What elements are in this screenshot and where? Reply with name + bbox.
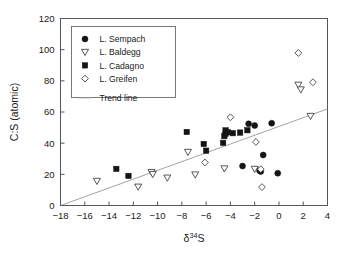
data-point xyxy=(220,140,225,145)
data-point xyxy=(237,130,242,135)
data-point xyxy=(269,120,275,126)
legend-label-l-sempach: L. Sempach xyxy=(100,34,146,44)
data-point xyxy=(135,184,142,190)
data-point xyxy=(164,175,171,181)
x-tick-label: 2 xyxy=(301,210,306,221)
y-tick-label: 100 xyxy=(39,44,55,55)
x-tick-label: −6 xyxy=(201,210,212,221)
data-point xyxy=(149,171,156,177)
y-axis-title: C:S (atomic) xyxy=(8,83,20,141)
scatter-plot: −18−16−14−12−10−8−6−4−202402040608010012… xyxy=(0,0,351,258)
data-point xyxy=(297,87,304,93)
data-point xyxy=(126,173,131,178)
data-point xyxy=(275,170,281,176)
x-tick-label: −2 xyxy=(249,210,260,221)
x-tick-label: −10 xyxy=(150,210,166,221)
x-tick-label: −14 xyxy=(101,210,117,221)
series-l-cadagno xyxy=(114,128,250,179)
legend-marker-l-cadagno xyxy=(82,63,87,68)
y-tick-label: 60 xyxy=(44,106,55,117)
data-point xyxy=(259,184,266,191)
data-point xyxy=(184,129,189,134)
legend-label-l-greifen: L. Greifen xyxy=(100,74,138,84)
data-point xyxy=(192,172,199,178)
data-point xyxy=(202,159,209,166)
legend-marker-l-sempach xyxy=(82,36,88,42)
data-point xyxy=(184,149,191,155)
data-point xyxy=(307,113,314,119)
legend-label-l-cadagno: L. Cadagno xyxy=(100,61,145,71)
y-tick-label: 80 xyxy=(44,75,55,86)
x-tick-label: 0 xyxy=(276,210,281,221)
data-point xyxy=(93,178,100,184)
data-point xyxy=(252,139,259,146)
data-point xyxy=(201,141,206,146)
data-point xyxy=(114,166,119,171)
legend-label-trend-line: Trend line xyxy=(100,93,138,103)
legend: L. SempachL. BaldeggL. CadagnoL. Greifen… xyxy=(72,27,176,103)
chart-figure: −18−16−14−12−10−8−6−4−202402040608010012… xyxy=(0,0,351,258)
data-point xyxy=(260,152,266,158)
data-point xyxy=(246,121,252,127)
data-point xyxy=(295,50,302,57)
y-tick-label: 20 xyxy=(44,169,55,180)
data-point xyxy=(230,130,235,135)
y-tick-label: 0 xyxy=(49,200,54,211)
x-tick-label: −16 xyxy=(77,210,93,221)
data-point xyxy=(245,128,250,133)
data-point xyxy=(240,163,246,169)
data-point xyxy=(203,148,208,153)
x-axis-title: δ34S xyxy=(184,230,205,244)
x-tick-label: −4 xyxy=(225,210,236,221)
data-point xyxy=(310,79,317,86)
series-l-greifen xyxy=(202,50,317,191)
x-tick-label: 4 xyxy=(325,210,330,221)
y-tick-label: 40 xyxy=(44,138,55,149)
data-point xyxy=(221,166,228,172)
legend-label-l-baldegg: L. Baldegg xyxy=(100,47,141,57)
trend-line xyxy=(61,109,328,206)
x-axis: −18−16−14−12−10−8−6−4−2024 xyxy=(52,202,330,221)
y-tick-label: 120 xyxy=(39,13,55,24)
x-tick-label: −18 xyxy=(52,210,68,221)
x-tick-label: −12 xyxy=(125,210,141,221)
data-point xyxy=(225,130,230,135)
x-tick-label: −8 xyxy=(176,210,187,221)
data-point xyxy=(227,114,234,121)
data-point xyxy=(252,123,258,129)
